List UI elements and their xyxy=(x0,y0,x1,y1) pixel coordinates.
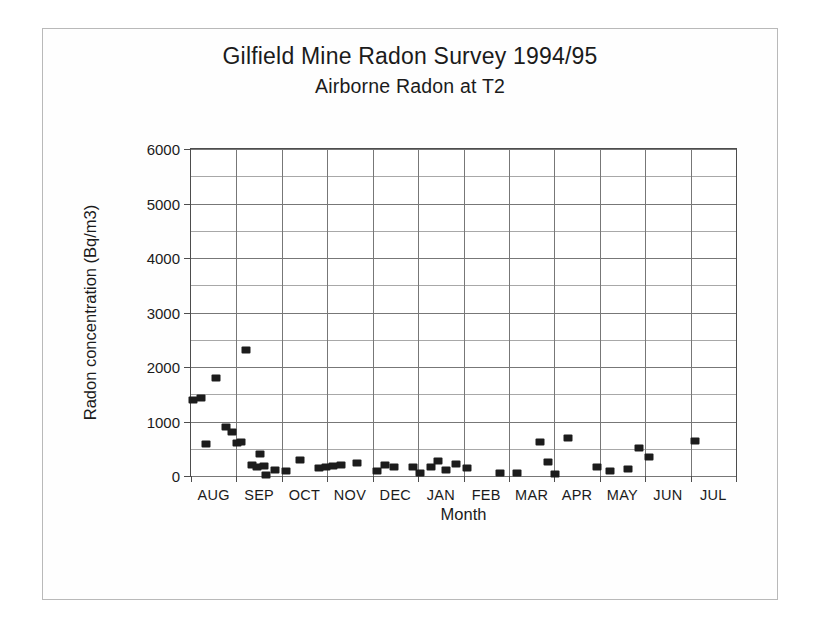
data-point-marker xyxy=(262,471,271,478)
y-axis-tick xyxy=(184,422,191,423)
y-axis-tick xyxy=(184,476,191,477)
x-axis-tick xyxy=(736,476,737,482)
gridline-vertical xyxy=(373,149,374,476)
x-axis-tick xyxy=(236,476,237,482)
data-point-marker xyxy=(242,346,251,353)
plot-area: 0100020003000400050006000AUGSEPOCTNOVDEC… xyxy=(190,148,737,477)
data-point-marker xyxy=(336,462,345,469)
data-point-marker xyxy=(543,459,552,466)
data-point-marker xyxy=(644,453,653,460)
y-axis-tick xyxy=(184,367,191,368)
x-axis-tick xyxy=(645,476,646,482)
data-point-marker xyxy=(623,466,632,473)
data-point-marker xyxy=(296,457,305,464)
data-point-marker xyxy=(196,395,205,402)
y-axis-tick xyxy=(184,258,191,259)
data-point-marker xyxy=(227,429,236,436)
data-point-marker xyxy=(551,470,560,477)
y-axis-tick-label: 2000 xyxy=(147,359,180,376)
data-point-marker xyxy=(381,461,390,468)
data-point-marker xyxy=(271,467,280,474)
x-axis-label: Month xyxy=(190,505,737,524)
data-point-marker xyxy=(495,469,504,476)
chart-subtitle: Airborne Radon at T2 xyxy=(42,74,778,99)
x-axis-tick xyxy=(373,476,374,482)
gridline-vertical xyxy=(236,149,237,476)
x-axis-tick-label: JUN xyxy=(653,487,682,503)
data-point-marker xyxy=(593,464,602,471)
data-point-marker xyxy=(259,463,268,470)
data-point-marker xyxy=(605,467,614,474)
data-point-marker xyxy=(563,434,572,441)
data-point-marker xyxy=(353,459,362,466)
x-axis-tick-label: JUL xyxy=(700,487,727,503)
data-point-marker xyxy=(452,461,461,468)
y-axis-tick-label: 5000 xyxy=(147,195,180,212)
gridline-vertical xyxy=(282,149,283,476)
gridline-vertical xyxy=(691,149,692,476)
gridline-vertical xyxy=(418,149,419,476)
x-axis-tick-label: JAN xyxy=(427,487,455,503)
x-axis-tick xyxy=(464,476,465,482)
data-point-marker xyxy=(415,470,424,477)
y-axis-tick-label: 4000 xyxy=(147,250,180,267)
gridline-vertical xyxy=(464,149,465,476)
x-axis-tick-label: SEP xyxy=(244,487,274,503)
data-point-marker xyxy=(691,438,700,445)
data-point-marker xyxy=(513,469,522,476)
gridline-vertical xyxy=(645,149,646,476)
x-axis-tick xyxy=(191,476,192,482)
x-axis-tick xyxy=(509,476,510,482)
y-axis-label: Radon concentration (Bq/m3) xyxy=(80,148,102,477)
y-axis-label-text: Radon concentration (Bq/m3) xyxy=(82,205,101,421)
data-point-marker xyxy=(442,467,451,474)
chart-figure: Gilfield Mine Radon Survey 1994/95 Airbo… xyxy=(42,28,778,600)
data-point-marker xyxy=(434,457,443,464)
gridline-vertical xyxy=(327,149,328,476)
x-axis-tick-label: AUG xyxy=(198,487,230,503)
data-point-marker xyxy=(463,464,472,471)
data-point-marker xyxy=(236,439,245,446)
data-point-marker xyxy=(282,467,291,474)
x-axis-tick-label: APR xyxy=(562,487,593,503)
data-point-marker xyxy=(373,467,382,474)
gridline-vertical xyxy=(509,149,510,476)
x-axis-tick-label: MAY xyxy=(607,487,638,503)
gridline-vertical xyxy=(600,149,601,476)
gridline-vertical xyxy=(554,149,555,476)
y-axis-tick-label: 3000 xyxy=(147,304,180,321)
x-axis-tick-label: FEB xyxy=(472,487,501,503)
title-block: Gilfield Mine Radon Survey 1994/95 Airbo… xyxy=(42,42,778,99)
x-axis-tick xyxy=(600,476,601,482)
y-axis-tick xyxy=(184,204,191,205)
x-axis-tick-label: MAR xyxy=(515,487,548,503)
y-axis-tick-label: 0 xyxy=(172,468,180,485)
y-axis-tick xyxy=(184,313,191,314)
data-point-marker xyxy=(535,439,544,446)
x-axis-tick xyxy=(418,476,419,482)
data-point-marker xyxy=(390,464,399,471)
y-axis-tick-label: 6000 xyxy=(147,141,180,158)
data-point-marker xyxy=(212,374,221,381)
scanned-page: Gilfield Mine Radon Survey 1994/95 Airbo… xyxy=(0,0,815,629)
data-point-marker xyxy=(426,463,435,470)
x-axis-tick xyxy=(327,476,328,482)
x-axis-tick xyxy=(691,476,692,482)
y-axis-tick-label: 1000 xyxy=(147,413,180,430)
data-point-marker xyxy=(256,451,265,458)
y-axis-tick xyxy=(184,149,191,150)
chart-title: Gilfield Mine Radon Survey 1994/95 xyxy=(42,42,778,71)
x-axis-tick xyxy=(282,476,283,482)
x-axis-tick-label: DEC xyxy=(380,487,412,503)
data-point-marker xyxy=(634,445,643,452)
x-axis-tick-label: NOV xyxy=(334,487,366,503)
x-axis-tick-label: OCT xyxy=(289,487,321,503)
data-point-marker xyxy=(202,440,211,447)
